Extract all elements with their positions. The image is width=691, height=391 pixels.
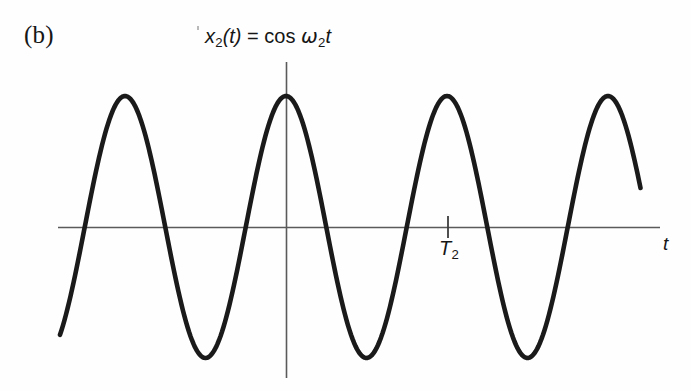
scan-artifact-mark xyxy=(197,26,199,30)
equation-omega-symbol: ω xyxy=(301,24,318,48)
figure-container: (b) x2(t) = cos ω2t T2 t xyxy=(0,0,691,391)
period-subscript: 2 xyxy=(451,247,459,262)
period-symbol: T xyxy=(439,237,451,259)
equation-cos-function: cos xyxy=(264,25,295,47)
equation-lhs-variable: x xyxy=(205,25,215,47)
equation-time-variable: t xyxy=(325,25,331,47)
equation-lhs-subscript: 2 xyxy=(215,35,223,50)
equation-lhs-argument: (t) xyxy=(223,25,242,47)
equation-label: x2(t) = cos ω2t xyxy=(205,26,331,49)
x-axis-label: t xyxy=(663,234,668,253)
period-label: T2 xyxy=(439,238,459,261)
panel-label: (b) xyxy=(24,22,54,47)
equation-equals-sign: = xyxy=(247,25,259,47)
cosine-plot xyxy=(0,0,691,391)
